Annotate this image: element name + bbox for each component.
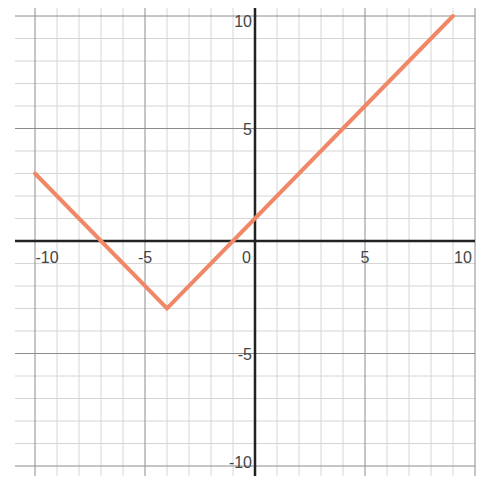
y-tick-label: -10	[229, 454, 252, 471]
x-tick-label: -5	[138, 249, 152, 266]
x-tick-label: -10	[35, 249, 58, 266]
axes	[15, 8, 475, 476]
x-tick-label: 10	[454, 249, 472, 266]
x-tick-label: 5	[361, 249, 370, 266]
y-tick-label: 5	[243, 121, 252, 138]
y-tick-label: 10	[234, 13, 252, 30]
function-graph: -10-50510105-5-10	[0, 0, 496, 488]
x-tick-label: 0	[242, 249, 251, 266]
y-tick-label: -5	[238, 346, 252, 363]
